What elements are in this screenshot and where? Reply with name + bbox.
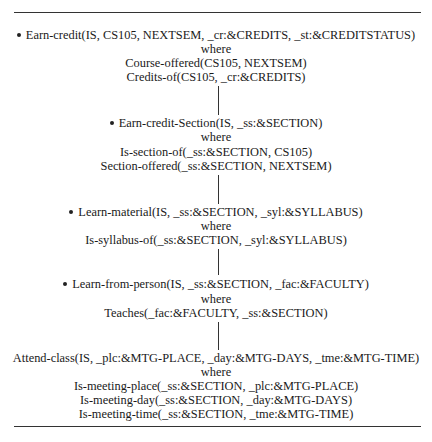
where-label: where <box>0 365 432 379</box>
node-head-text: Learn-from-person(IS, _ss:&SECTION, _fac… <box>72 277 369 291</box>
node-head-text: Earn-credit-Section(IS, _ss:&SECTION) <box>119 116 323 130</box>
condition: Course-offered(CS105, NEXTSEM) <box>0 56 432 70</box>
condition: Is-section-of(_ss:&SECTION, CS105) <box>0 145 432 159</box>
bullet-icon <box>17 33 21 37</box>
condition: Is-meeting-place(_ss:&SECTION, _plc:&MTG… <box>0 379 432 393</box>
node-head: Earn-credit(IS, CS105, NEXTSEM, _cr:&CRE… <box>0 28 432 42</box>
bullet-icon <box>63 282 67 286</box>
bullet-icon <box>110 121 114 125</box>
node-head: Earn-credit-Section(IS, _ss:&SECTION) <box>0 116 432 130</box>
top-rule <box>14 12 421 13</box>
condition: Credits-of(CS105, _cr:&CREDITS) <box>0 70 432 84</box>
node-head-text: Earn-credit(IS, CS105, NEXTSEM, _cr:&CRE… <box>26 28 415 42</box>
node-head-text: Learn-material(IS, _ss:&SECTION, _syl:&S… <box>78 205 362 219</box>
condition: Is-meeting-time(_ss:&SECTION, _tme:&MTG-… <box>0 407 432 421</box>
where-label: where <box>0 42 432 56</box>
condition: Is-meeting-day(_ss:&SECTION, _day:&MTG-D… <box>0 393 432 407</box>
node-head: Learn-from-person(IS, _ss:&SECTION, _fac… <box>0 277 432 291</box>
connector-line <box>218 249 219 275</box>
node-head: Learn-material(IS, _ss:&SECTION, _syl:&S… <box>0 205 432 219</box>
condition: Teaches(_fac:&FACULTY, _ss:&SECTION) <box>0 306 432 320</box>
connector-line <box>218 322 219 350</box>
bullet-icon <box>69 210 73 214</box>
condition: Section-offered(_ss:&SECTION, NEXTSEM) <box>0 159 432 173</box>
connector-line <box>218 175 219 204</box>
condition: Is-syllabus-of(_ss:&SECTION, _syl:&SYLLA… <box>0 233 432 247</box>
where-label: where <box>0 130 432 144</box>
where-label: where <box>0 292 432 306</box>
where-label: where <box>0 219 432 233</box>
connector-line <box>218 86 219 115</box>
bottom-rule <box>14 426 421 427</box>
node-head: Attend-class(IS, _plc:&MTG-PLACE, _day:&… <box>0 351 432 365</box>
